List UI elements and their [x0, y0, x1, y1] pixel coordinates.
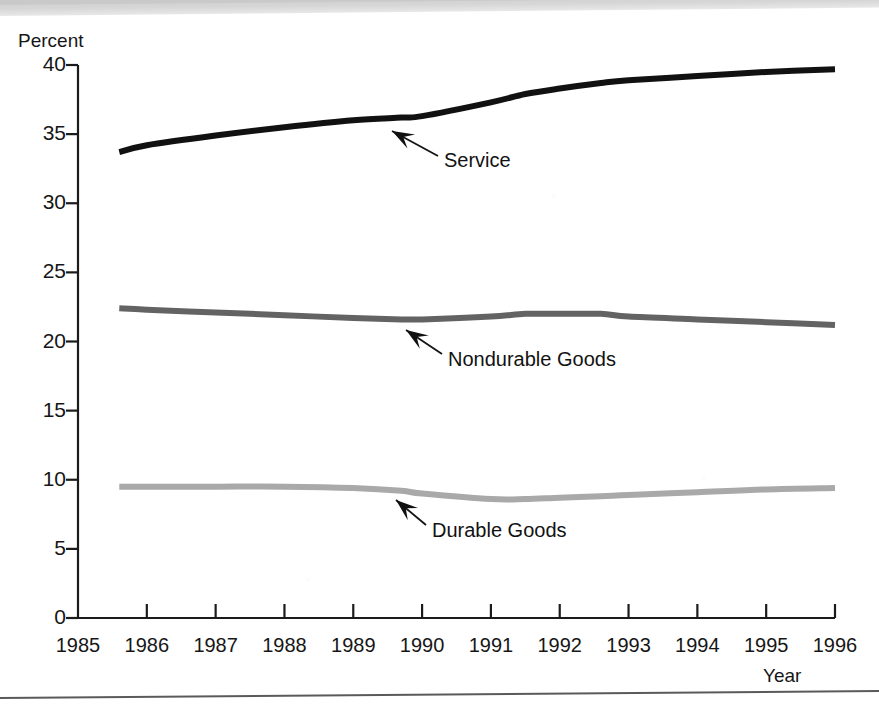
series-line-nondurable-goods [119, 308, 835, 325]
chart-figure: Percent Year 0510152025303540 1985198619… [0, 0, 879, 724]
series-line-service [119, 69, 835, 152]
annotation-arrowhead [406, 330, 429, 349]
annotation-arrows [392, 131, 442, 525]
series-line-durable-goods [119, 487, 835, 500]
axis-lines [66, 65, 835, 618]
series-lines [119, 69, 835, 499]
annotation-arrowhead [392, 131, 415, 149]
plot-canvas [0, 0, 879, 724]
